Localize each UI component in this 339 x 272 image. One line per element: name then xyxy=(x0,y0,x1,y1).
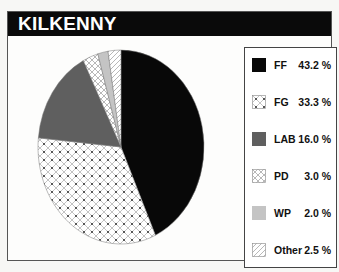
swatch-fg xyxy=(252,95,266,109)
legend-value: 3.0 % xyxy=(304,170,331,182)
legend-label: WP xyxy=(274,207,291,219)
legend-value: 2.0 % xyxy=(304,207,331,219)
legend-value: 43.2 % xyxy=(298,59,331,71)
swatch-ff xyxy=(252,58,266,72)
swatch-lab xyxy=(252,132,266,146)
legend-label: FF xyxy=(274,59,287,71)
legend-value: 16.0 % xyxy=(298,133,331,145)
legend-item-ff: FF 43.2 % xyxy=(245,56,336,76)
legend-item-lab: LAB 16.0 % xyxy=(245,130,336,150)
pie-slices xyxy=(38,50,204,244)
swatch-pd xyxy=(252,169,266,183)
chart-frame: KILKENNY FF 43.2 % xyxy=(7,11,332,261)
legend-item-wp: WP 2.0 % xyxy=(245,204,336,224)
legend-label: Other xyxy=(274,244,302,256)
legend-item-fg: FG 33.3 % xyxy=(245,93,336,113)
swatch-wp xyxy=(252,206,266,220)
legend-value: 2.5 % xyxy=(304,244,331,256)
swatch-other xyxy=(252,243,266,257)
legend-label: LAB xyxy=(274,133,296,145)
legend-item-other: Other 2.5 % xyxy=(245,241,336,261)
legend-label: FG xyxy=(274,96,289,108)
legend: FF 43.2 % FG 33.3 % LAB 16.0 % PD 3.0 % … xyxy=(244,47,337,268)
legend-value: 33.3 % xyxy=(298,96,331,108)
legend-label: PD xyxy=(274,170,289,182)
legend-item-pd: PD 3.0 % xyxy=(245,167,336,187)
